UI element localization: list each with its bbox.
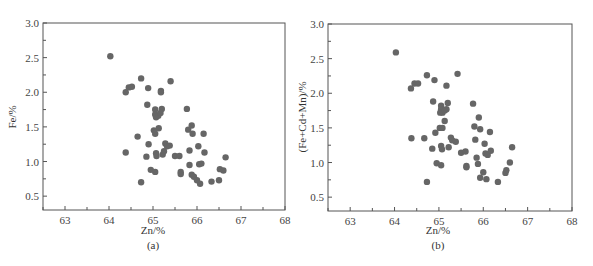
data-point bbox=[424, 179, 430, 185]
y-tick-label: 2.5 bbox=[310, 53, 324, 65]
data-point bbox=[138, 75, 144, 81]
data-point bbox=[167, 142, 173, 148]
data-point bbox=[477, 126, 483, 132]
data-point bbox=[472, 136, 478, 142]
data-point bbox=[208, 178, 214, 184]
data-point bbox=[143, 153, 149, 159]
data-point bbox=[156, 125, 162, 131]
chart-b-ylabel: (Fe+Cd+Mn)/% bbox=[296, 81, 309, 152]
data-point bbox=[488, 148, 494, 154]
data-point bbox=[189, 122, 195, 128]
data-point bbox=[186, 162, 192, 168]
chart-b-panel-label: (b) bbox=[432, 239, 445, 252]
data-point bbox=[483, 176, 489, 182]
data-point bbox=[480, 169, 486, 175]
y-tick-label: 0.5 bbox=[25, 190, 39, 202]
x-tick-label: 68 bbox=[280, 214, 292, 226]
data-point bbox=[176, 153, 182, 159]
x-tick-label: 63 bbox=[345, 215, 357, 227]
x-tick-label: 64 bbox=[389, 215, 401, 227]
data-point bbox=[509, 144, 515, 150]
data-point bbox=[495, 179, 501, 185]
data-point bbox=[477, 175, 483, 181]
chart-b-xlabel: Zn/% bbox=[426, 224, 450, 236]
data-point bbox=[481, 141, 487, 147]
y-tick-label: 2.0 bbox=[25, 86, 39, 98]
data-point bbox=[439, 125, 445, 131]
y-tick-label: 1.5 bbox=[310, 122, 324, 134]
data-point bbox=[415, 80, 421, 86]
data-point bbox=[445, 144, 451, 150]
data-point bbox=[454, 71, 460, 77]
data-point bbox=[158, 89, 164, 95]
y-tick-label: 2.0 bbox=[310, 87, 324, 99]
chart-a-ylabel: Fe/% bbox=[6, 105, 18, 128]
data-point bbox=[443, 82, 449, 88]
data-point bbox=[222, 154, 228, 160]
data-point bbox=[145, 141, 151, 147]
chart-a-xlabel: Zn/% bbox=[141, 224, 165, 236]
data-point bbox=[462, 148, 468, 154]
data-point bbox=[507, 159, 513, 165]
y-tick-label: 2.5 bbox=[25, 52, 39, 64]
data-point bbox=[178, 171, 184, 177]
data-point bbox=[431, 77, 437, 83]
chart-b-plot: 6364656667680.51.01.52.02.53.0 bbox=[310, 18, 578, 227]
data-point bbox=[167, 78, 173, 84]
y-tick-label: 1.5 bbox=[25, 121, 39, 133]
data-point bbox=[189, 131, 195, 137]
y-tick-label: 1.0 bbox=[25, 156, 39, 168]
scatter-chart-b: 6364656667680.51.01.52.02.53.0 Zn/% (b) … bbox=[296, 0, 592, 266]
x-tick-label: 64 bbox=[104, 214, 116, 226]
data-point bbox=[487, 129, 493, 135]
data-point bbox=[145, 85, 151, 91]
chart-a-panel-label: (a) bbox=[147, 239, 160, 252]
data-point bbox=[157, 110, 163, 116]
data-point bbox=[393, 49, 399, 55]
data-point bbox=[220, 167, 226, 173]
data-point bbox=[441, 118, 447, 124]
data-point bbox=[470, 100, 476, 106]
data-point bbox=[473, 154, 479, 160]
data-point bbox=[195, 143, 201, 149]
data-point bbox=[152, 169, 158, 175]
data-point bbox=[134, 133, 140, 139]
data-point bbox=[443, 106, 449, 112]
data-point bbox=[152, 131, 158, 137]
chart-a-plot: 6364656667680.51.01.52.02.53.0 bbox=[25, 17, 291, 226]
data-point bbox=[476, 114, 482, 120]
data-point bbox=[186, 147, 192, 153]
data-point bbox=[216, 177, 222, 183]
y-tick-label: 3.0 bbox=[310, 18, 324, 30]
data-point bbox=[201, 149, 207, 155]
data-point bbox=[197, 180, 203, 186]
data-point bbox=[471, 123, 477, 129]
data-point bbox=[429, 145, 435, 151]
data-point bbox=[432, 130, 438, 136]
data-point bbox=[200, 131, 206, 137]
data-point bbox=[153, 153, 159, 159]
data-point bbox=[123, 149, 129, 155]
data-point bbox=[144, 102, 150, 108]
x-tick-label: 67 bbox=[522, 215, 534, 227]
x-tick-label: 66 bbox=[478, 215, 490, 227]
data-point bbox=[138, 179, 144, 185]
x-tick-label: 66 bbox=[192, 214, 204, 226]
chart-a-svg: 6364656667680.51.01.52.02.53.0 Zn/% (a) … bbox=[0, 0, 296, 266]
data-point bbox=[463, 164, 469, 170]
y-tick-label: 0.5 bbox=[310, 191, 324, 203]
data-point bbox=[408, 135, 414, 141]
data-point bbox=[453, 139, 459, 145]
data-point bbox=[421, 135, 427, 141]
chart-b-svg: 6364656667680.51.01.52.02.53.0 Zn/% (b) … bbox=[296, 0, 593, 266]
plot-frame bbox=[43, 23, 285, 210]
plot-frame bbox=[328, 24, 572, 211]
y-tick-label: 3.0 bbox=[25, 17, 39, 29]
data-point bbox=[129, 84, 135, 90]
data-point bbox=[424, 72, 430, 78]
data-point bbox=[439, 146, 445, 152]
x-tick-label: 67 bbox=[236, 214, 248, 226]
data-point bbox=[430, 98, 436, 104]
y-tick-label: 1.0 bbox=[310, 157, 324, 169]
data-point bbox=[198, 160, 204, 166]
